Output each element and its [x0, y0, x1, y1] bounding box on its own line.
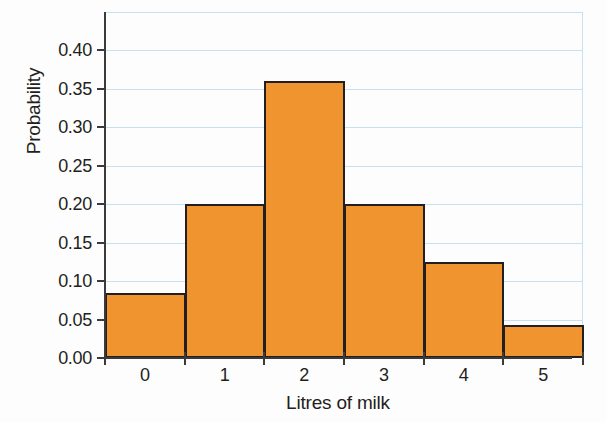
y-axis-line [104, 12, 106, 360]
y-axis-tick-label: 0.05 [36, 311, 92, 329]
x-axis-tick-label: 0 [125, 364, 165, 386]
y-axis-tick-label: 0.25 [36, 157, 92, 175]
y-axis-tick-labels: 0.000.050.100.150.200.250.300.350.40 [30, 0, 92, 423]
x-axis-tick [184, 352, 186, 365]
y-axis-tick-label: 0.40 [36, 41, 92, 59]
y-axis-tick [97, 319, 106, 321]
y-axis-tick [97, 126, 106, 128]
bar [503, 325, 584, 358]
y-axis-tick [97, 242, 106, 244]
x-axis-tick [423, 352, 425, 365]
x-axis-tick [502, 352, 504, 365]
y-axis-tick-label: 0.20 [36, 195, 92, 213]
y-axis-tick [97, 88, 106, 90]
bar [185, 204, 266, 358]
x-axis-tick-label: 1 [205, 364, 245, 386]
x-axis-line [98, 357, 572, 359]
histogram-figure: Probability 0.000.050.100.150.200.250.30… [0, 0, 607, 423]
y-axis-tick-label: 0.15 [36, 234, 92, 252]
gridline [105, 12, 583, 13]
x-axis-tick-label: 4 [444, 364, 484, 386]
gridline [105, 50, 583, 51]
x-axis-tick-label: 5 [523, 364, 563, 386]
x-axis-tick [343, 352, 345, 365]
bar [424, 262, 505, 358]
bar [105, 293, 186, 358]
plot-area [105, 12, 583, 358]
y-axis-tick-label: 0.10 [36, 272, 92, 290]
x-axis-tick [582, 352, 584, 365]
y-axis-tick-label: 0.30 [36, 118, 92, 136]
y-axis-tick [97, 203, 106, 205]
bar [344, 204, 425, 358]
plot-right-border [582, 12, 583, 358]
y-axis-tick-label: 0.35 [36, 80, 92, 98]
y-axis-tick-label: 0.00 [36, 349, 92, 367]
y-axis-tick [97, 280, 106, 282]
y-axis-tick [97, 165, 106, 167]
bar [264, 81, 345, 358]
x-axis-tick-label: 3 [364, 364, 404, 386]
y-axis-tick [97, 49, 106, 51]
x-axis-tick-label: 2 [284, 364, 324, 386]
x-axis-title: Litres of milk [105, 392, 571, 414]
x-axis-tick [104, 352, 106, 365]
x-axis-tick [263, 352, 265, 365]
